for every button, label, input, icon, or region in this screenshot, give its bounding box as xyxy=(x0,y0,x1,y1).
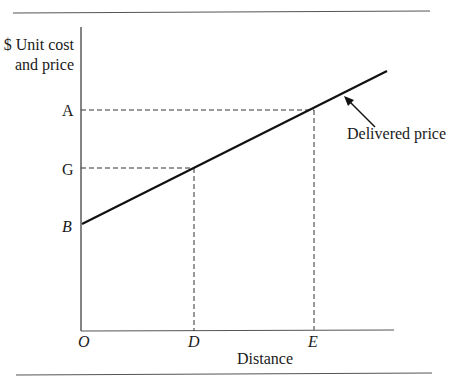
x-axis-title: Distance xyxy=(237,350,293,367)
delivered-price-label: Delivered price xyxy=(347,125,446,143)
y-axis-title-line2: and price xyxy=(15,56,74,74)
label-origin: O xyxy=(78,333,90,350)
y-axis-title-line1: $ Unit cost xyxy=(4,36,75,53)
delivered-price-line xyxy=(82,71,387,224)
delivered-price-diagram: $ Unit cost and price A G B O D E Distan… xyxy=(0,0,455,391)
guide-lines xyxy=(81,110,314,331)
arrow-icon xyxy=(344,96,375,127)
label-d: D xyxy=(187,333,200,350)
x-axis xyxy=(81,330,394,331)
label-e: E xyxy=(307,333,318,350)
label-g: G xyxy=(62,161,74,178)
label-a: A xyxy=(62,102,74,119)
bottom-rule xyxy=(16,373,432,375)
label-b: B xyxy=(62,218,72,235)
top-rule xyxy=(13,11,430,13)
